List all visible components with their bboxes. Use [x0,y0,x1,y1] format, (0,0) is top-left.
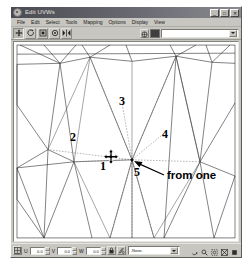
menu-item-tools[interactable]: Tools [63,19,81,25]
menu-item-mapping[interactable]: Mapping [80,19,105,25]
zoom-extents-tool-button[interactable] [220,246,229,255]
annotation-1: 1 [100,159,106,173]
v-spin-arrows[interactable] [72,247,77,255]
u-coordinate-field[interactable]: 0.0 [30,247,45,255]
selection-combo-value: -None- [129,248,170,254]
close-button[interactable]: ✕ [230,9,239,17]
pivot-icon[interactable] [13,246,22,255]
map-combo[interactable] [161,29,239,38]
scale-tool-button[interactable] [37,28,48,39]
hand-icon [191,242,198,260]
scale-icon [39,29,47,37]
window-title: Edit UVWs [25,9,210,16]
snap-icon[interactable] [117,246,126,255]
uv-canvas[interactable]: 1 2 3 4 5 from one [13,41,239,242]
move-icon [15,29,23,37]
app-icon [13,8,22,17]
show-map-button[interactable] [140,29,149,38]
v-coordinate-field[interactable]: 0.0 [57,247,72,255]
material-swatch[interactable] [150,29,160,38]
zoom-tool-button[interactable] [200,246,209,255]
w-spin-arrows[interactable] [101,247,106,255]
move-tool-button[interactable] [13,28,24,39]
toolbar [11,27,241,40]
menu-item-file[interactable]: File [14,19,28,25]
menu-item-select[interactable]: Select [43,19,63,25]
magnifier-icon [201,242,208,260]
window-controls: _ □ ✕ [210,9,239,17]
callout-text: from one [167,169,217,181]
v-coordinate-spinner[interactable]: 0.0 [57,247,77,255]
zoom-extents-icon [221,242,228,260]
maximize-button[interactable]: □ [220,9,229,17]
u-axis-label: U [23,248,29,254]
annotation-3: 3 [119,94,125,108]
mirror-tool-button[interactable] [61,28,72,39]
pan-tool-button[interactable] [190,246,199,255]
menu-item-edit[interactable]: Edit [28,19,43,25]
menu-bar: File Edit Select Tools Mapping Options D… [11,18,241,27]
title-bar[interactable]: Edit UVWs _ □ ✕ [11,7,241,18]
annotation-5: 5 [134,165,140,179]
annotation-2: 2 [70,130,76,144]
menu-item-view[interactable]: View [151,19,168,25]
menu-item-options[interactable]: Options [105,19,128,25]
selection-combo[interactable]: -None- [128,246,180,255]
zoom-extents-selected-tool-button[interactable] [230,246,239,255]
zoom-region-icon [211,242,218,260]
w-coordinate-spinner[interactable]: 0.0 [86,247,106,255]
status-bar: U 0.0 V 0.0 W 0.0 -None [11,243,241,257]
rotate-icon [27,29,35,37]
chevron-down-icon[interactable] [170,247,178,254]
u-coordinate-spinner[interactable]: 0.0 [30,247,50,255]
rotate-tool-button[interactable] [25,28,36,39]
freeform-icon [51,29,59,37]
v-axis-label: V [51,248,56,254]
annotation-4: 4 [162,127,168,141]
callout-arrow-line [137,163,164,175]
chevron-down-icon[interactable] [229,30,237,37]
freeform-tool-button[interactable] [49,28,60,39]
u-spin-arrows[interactable] [45,247,50,255]
canvas-area: 1 2 3 4 5 from one [11,40,241,243]
uv-mesh: 1 2 3 4 5 from one [14,42,238,241]
edit-uvws-window: Edit UVWs _ □ ✕ File Edit Select Tools M… [10,6,242,258]
zoom-extents-selected-icon [231,242,238,260]
w-coordinate-field[interactable]: 0.0 [86,247,101,255]
w-axis-label: W [78,248,85,254]
lock-icon[interactable] [107,246,116,255]
mirror-icon [62,29,71,37]
zoom-region-tool-button[interactable] [210,246,219,255]
minimize-button[interactable]: _ [210,9,219,17]
